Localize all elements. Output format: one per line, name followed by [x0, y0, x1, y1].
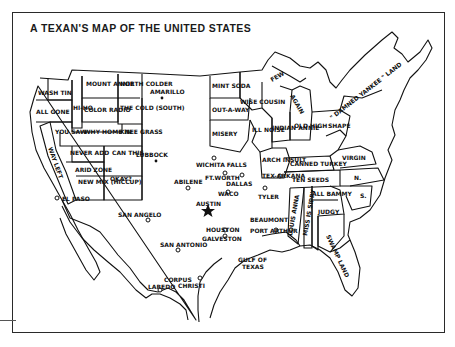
label-washington: WASH TIN	[38, 89, 72, 96]
city-lubbock: LUBBOCK	[136, 151, 168, 158]
label-minnesota: MINT SODA	[212, 82, 251, 89]
city-abilene: ABILENE	[174, 178, 203, 185]
city-dallas: DALLAS	[226, 180, 252, 187]
label-south-carolina: S.	[360, 192, 367, 199]
label-oregon: ALL GONE	[36, 108, 70, 115]
label-nevada: YOU SAW	[54, 128, 87, 135]
label-utah: NEVER ADD	[70, 149, 109, 156]
texan-us-map: WASH TIN ALL GONE HI-HO MOUNT ANNIE NORT…	[0, 0, 455, 347]
label-georgia: JUDGY	[317, 208, 340, 216]
city-texarkana: TEX-ARKANA	[262, 172, 305, 179]
label-arizona: ARID ZONE	[75, 166, 112, 173]
label-michigan-up: FEW	[269, 69, 286, 83]
label-iowa: OUT-A-WAY	[212, 106, 250, 113]
city-houston: HOUSTON	[206, 226, 240, 233]
label-new-england: " DAMNED YANKEE " LAND	[328, 60, 403, 120]
label-michigan: AGAIN	[289, 93, 306, 115]
city-austin: AUSTIN	[196, 200, 221, 207]
label-colorado: COLOR RADIO	[84, 106, 131, 113]
city-port-arthur: PORT ARTHUR	[250, 227, 298, 234]
city-amarillo: AMARILLO	[150, 88, 185, 95]
city-beaumont: BEAUMONT	[250, 216, 289, 223]
city-san-angelo: SAN ANGELO	[118, 211, 161, 218]
label-pennsylvania: SHAPE	[328, 122, 350, 129]
city-christi: CHRISTI	[178, 282, 205, 289]
label-kentucky: CANNED TURKEY	[290, 160, 348, 167]
city-san-antonio: SAN ANTONIO	[160, 241, 207, 248]
city-tyler: TYLER	[258, 193, 279, 200]
city-laredo: LAREDO	[148, 283, 175, 290]
label-wisconsin: WISE COUSIN	[240, 98, 285, 105]
label-alabama: ALL BAMMY	[312, 190, 353, 197]
label-north-carolina: N.	[354, 174, 361, 181]
city-wichita-falls: WICHITA FALLS	[196, 161, 247, 168]
label-nebraska: KNEE GRASS	[120, 128, 163, 135]
city-labels: AMARILLO LUBBOCK WICHITA FALLS FT.WORTH …	[62, 88, 305, 290]
label-north-dakota: NORTH COLDER	[120, 80, 173, 87]
city-galveston: GALVESTON	[202, 235, 242, 242]
label-new-mexico: NEW MIX (HICCUP)	[78, 178, 142, 185]
city-waco: WACO	[218, 190, 239, 197]
texas-gulf-coast	[198, 258, 222, 322]
baja-coast	[60, 200, 100, 280]
label-ohio: OLD HIGH	[294, 122, 327, 129]
label-missouri: MISERY	[212, 130, 238, 137]
gulf-label-1: GULF OF	[238, 256, 267, 263]
city-el-paso: EL PASO	[62, 195, 90, 202]
label-virginia: VIRGIN	[342, 154, 366, 161]
gulf-label-2: TEXAS	[242, 263, 264, 270]
